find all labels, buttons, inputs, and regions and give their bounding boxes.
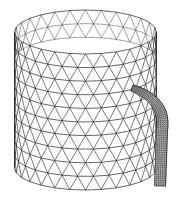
cylinder-mesh-diagram	[0, 0, 181, 212]
mesh-figure	[0, 0, 181, 212]
cylinder-front-mesh	[15, 32, 157, 190]
